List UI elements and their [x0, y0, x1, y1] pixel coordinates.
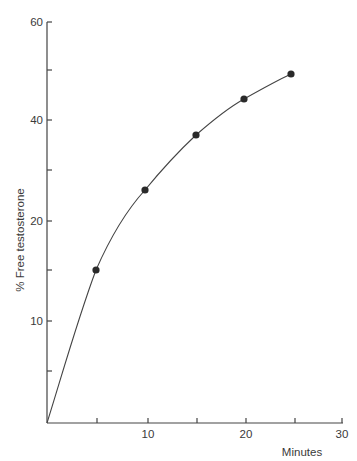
data-point [240, 95, 247, 102]
chart: 60 40 20 10 10 20 30 Minutes % Free test… [0, 0, 357, 461]
y-axis-title: % Free testosterone [14, 188, 26, 292]
x-tick-label-10: 10 [142, 428, 155, 440]
x-tick-label-30: 30 [336, 428, 349, 440]
x-tick-label-20: 20 [240, 428, 253, 440]
x-axis-title: Minutes [282, 446, 323, 458]
axes [47, 22, 343, 423]
y-tick-label-40: 40 [30, 114, 43, 126]
y-tick-label-20: 20 [30, 215, 43, 227]
data-points [92, 70, 294, 273]
data-point [141, 186, 148, 193]
fitted-curve [47, 74, 291, 423]
data-point [92, 266, 99, 273]
data-point [287, 70, 294, 77]
y-tick-label-60: 60 [30, 16, 43, 28]
data-point [192, 131, 199, 138]
y-tick-label-10: 10 [30, 315, 43, 327]
